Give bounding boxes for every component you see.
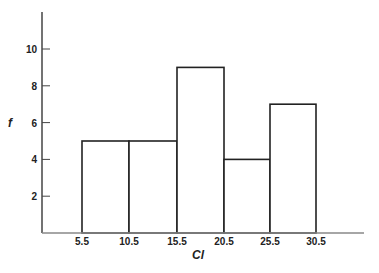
x-ticks-group: 5.510.515.520.525.530.5 — [75, 236, 326, 247]
y-tick-label: 10 — [26, 44, 38, 55]
y-axis-label: f — [8, 116, 13, 130]
histogram-bar — [270, 104, 316, 233]
histogram-bar — [177, 67, 224, 233]
y-ticks-group: 246810 — [26, 44, 50, 202]
y-tick-label: 8 — [31, 81, 37, 92]
x-tick-label: 10.5 — [119, 236, 139, 247]
x-tick-label: 20.5 — [214, 236, 234, 247]
y-tick-label: 4 — [31, 154, 37, 165]
histogram-bar — [129, 141, 177, 233]
histogram-bar — [82, 141, 129, 233]
histogram-chart: 246810 5.510.515.520.525.530.5 f Cl — [0, 0, 379, 273]
x-tick-label: 5.5 — [75, 236, 89, 247]
bars-group — [82, 67, 316, 233]
x-tick-label: 25.5 — [260, 236, 280, 247]
histogram-bar — [224, 159, 270, 233]
y-tick-label: 2 — [31, 191, 37, 202]
x-tick-label: 30.5 — [306, 236, 326, 247]
y-tick-label: 6 — [31, 118, 37, 129]
x-axis-label: Cl — [192, 248, 205, 262]
x-tick-label: 15.5 — [167, 236, 187, 247]
